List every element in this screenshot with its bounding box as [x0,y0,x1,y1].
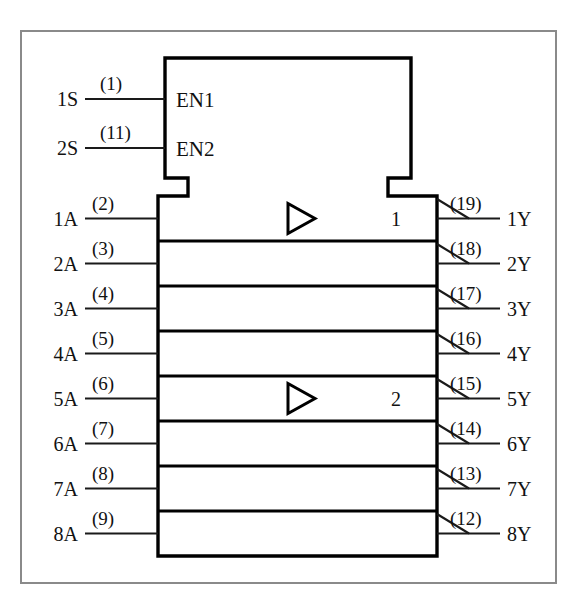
input-signal-label: 2A [54,253,79,275]
input-signal-label: 5A [54,388,79,410]
input-signal-label: 1A [54,208,79,230]
enable-label: EN2 [176,137,215,161]
control-pin-number: (1) [100,73,122,95]
input-signal-label: 6A [54,433,79,455]
output-pin-number: (12) [450,508,482,530]
logic-symbol-svg: 12 1S(1)EN12S(11)EN2 1A(2)2A(3)3A(4)4A(5… [0,0,580,606]
input-pin-number: (4) [92,283,114,305]
input-pin-group: 1A(2)2A(3)3A(4)4A(5)5A(6)6A(7)7A(8)8A(9) [54,193,158,545]
output-pin-number: (17) [450,283,482,305]
input-pin-number: (8) [92,463,114,485]
output-signal-label: 2Y [507,253,531,275]
input-pin-number: (3) [92,238,114,260]
output-signal-label: 5Y [507,388,531,410]
output-signal-label: 8Y [507,523,531,545]
input-signal-label: 7A [54,478,79,500]
input-pin-number: (7) [92,418,114,440]
output-pin-number: (13) [450,463,482,485]
logic-diagram: 12 1S(1)EN12S(11)EN2 1A(2)2A(3)3A(4)4A(5… [0,0,580,606]
group-marker: 2 [391,388,401,410]
control-signal-label: 2S [57,137,78,159]
device-outline [158,58,437,556]
output-pin-number: (14) [450,418,482,440]
output-signal-label: 4Y [507,343,531,365]
input-signal-label: 4A [54,343,79,365]
input-signal-label: 8A [54,523,79,545]
control-signal-label: 1S [57,88,78,110]
output-signal-label: 1Y [507,208,531,230]
input-pin-number: (6) [92,373,114,395]
input-pin-number: (5) [92,328,114,350]
output-pin-number: (18) [450,238,482,260]
output-pin-number: (15) [450,373,482,395]
enable-label: EN1 [176,88,215,112]
output-pin-number: (19) [450,193,482,215]
output-signal-label: 6Y [507,433,531,455]
control-pin-number: (11) [100,122,131,144]
input-pin-number: (9) [92,508,114,530]
output-signal-label: 7Y [507,478,531,500]
output-pin-group: (19)1Y(18)2Y(17)3Y(16)4Y(15)5Y(14)6Y(13)… [437,193,531,545]
input-pin-number: (2) [92,193,114,215]
input-signal-label: 3A [54,298,79,320]
group-marker: 1 [391,208,401,230]
output-signal-label: 3Y [507,298,531,320]
output-pin-number: (16) [450,328,482,350]
